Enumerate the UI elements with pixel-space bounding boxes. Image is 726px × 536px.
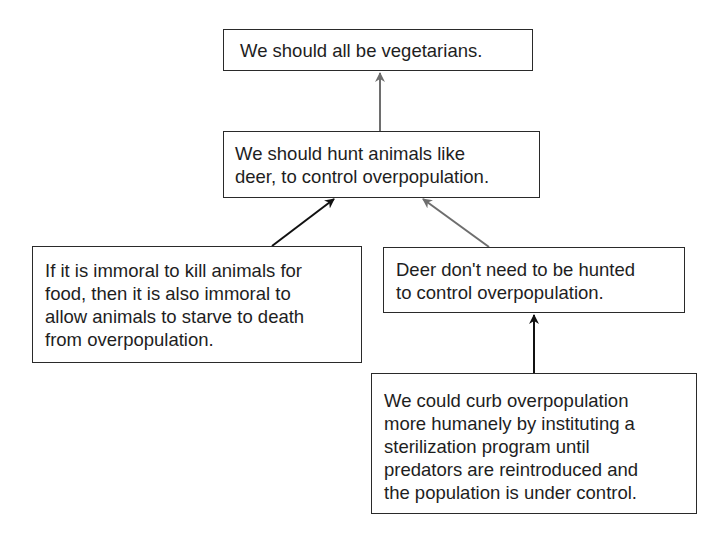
arrow-rebuttal-to-objection: [423, 199, 489, 247]
node-text-line: Deer don't need to be hunted: [396, 258, 674, 281]
node-text-line: more humanely by instituting a: [384, 412, 686, 435]
node-support-rebuttal: We could curb overpopulation more humane…: [371, 373, 697, 514]
node-text-line: deer, to control overpopulation.: [235, 165, 529, 188]
node-text-line: We should hunt animals like: [235, 142, 529, 165]
node-text-line: If it is immoral to kill animals for: [45, 259, 351, 282]
node-text-line: predators are reintroduced and: [384, 458, 686, 481]
node-text-line: food, then it is also immoral to: [45, 282, 351, 305]
node-objection: We should hunt animals like deer, to con…: [223, 131, 540, 198]
arrow-support-objection-to-objection: [272, 199, 334, 246]
node-text-line: allow animals to starve to death: [45, 305, 351, 328]
node-support-objection: If it is immoral to kill animals for foo…: [32, 246, 362, 363]
node-text-line: We should all be vegetarians.: [240, 39, 522, 62]
node-text-line: to control overpopulation.: [396, 281, 674, 304]
node-text-line: the population is under control.: [384, 481, 686, 504]
node-conclusion: We should all be vegetarians.: [223, 29, 533, 71]
node-rebuttal: Deer don't need to be hunted to control …: [383, 247, 685, 313]
node-text-line: from overpopulation.: [45, 328, 351, 351]
node-text-line: sterilization program until: [384, 435, 686, 458]
node-text-line: We could curb overpopulation: [384, 389, 686, 412]
